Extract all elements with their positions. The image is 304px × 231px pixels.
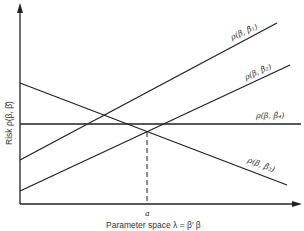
label-beta2: ρ(β, β̂₂) [242, 62, 273, 82]
x-axis-arrow-icon [292, 201, 302, 207]
x-axis-label: Parameter space λ = β′ β [106, 220, 201, 230]
x-marker-label-a: a [145, 209, 150, 218]
risk-diagram: ρ(β, β̂₁) ρ(β, β̂₂) ρ(β, β̂₄) ρ(β, β̂₃) … [0, 0, 304, 231]
label-beta1: ρ(β, β̂₁) [228, 22, 259, 42]
y-axis-label: Risk ρ(β, β̂) [4, 101, 14, 145]
risk-line-beta2 [20, 65, 290, 191]
label-beta4: ρ(β, β̂₄) [255, 111, 285, 120]
y-axis-arrow-icon [17, 3, 23, 13]
y-axis [17, 3, 23, 204]
x-axis [20, 201, 302, 207]
risk-line-beta3 [20, 83, 287, 185]
risk-line-beta1 [20, 23, 277, 160]
